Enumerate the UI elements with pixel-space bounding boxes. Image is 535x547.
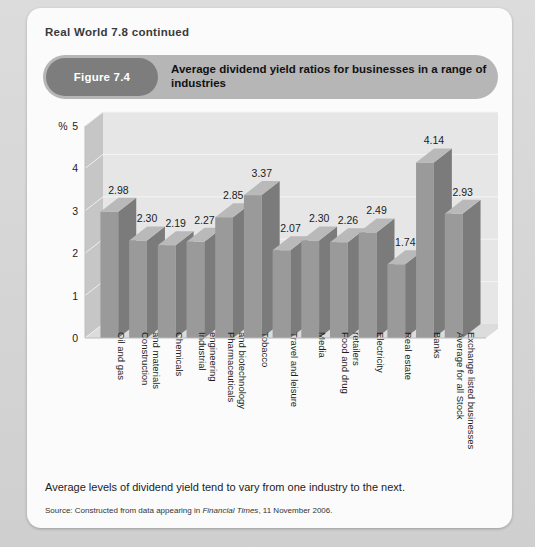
y-axis-tick-label: 4 [72,162,78,174]
figure-number-label: Figure 7.4 [74,71,130,83]
y-axis-unit-label: % [58,120,67,132]
plot-left-wall [85,112,103,338]
bar-chart: 012345%2.98Oil and gas2.30Constructionan… [43,108,498,463]
bar-group [445,200,481,338]
bar-front-face [330,242,348,338]
x-axis-category-label: Banks [432,332,443,359]
bar-front-face [301,240,319,338]
x-axis-category-label: Travel and leisure [289,332,300,407]
bar-front-face [100,212,118,338]
bar-value-label: 2.93 [452,186,473,198]
figure-title-bar: Figure 7.4 Average dividend yield ratios… [43,55,498,99]
bar-value-label: 2.30 [137,212,158,224]
bar-value-label: 2.07 [280,222,301,234]
bar-value-label: 3.37 [252,167,273,179]
chart-container: 012345%2.98Oil and gas2.30Constructionan… [43,108,498,463]
figure-number-pill: Figure 7.4 [46,58,158,96]
bar-value-label: 2.85 [223,189,244,201]
figure-title: Average dividend yield ratios for busine… [171,62,489,90]
x-axis-category-label: and materials [151,332,162,389]
bar-value-label: 2.49 [366,204,387,216]
bar-value-label: 2.19 [166,217,187,229]
x-axis-category-label: Pharmaceuticals [226,332,237,402]
source-publication: Financial Times [202,506,258,515]
bar-side-face [463,200,481,338]
bar-front-face [215,217,233,338]
figure-card: Real World 7.8 continued Figure 7.4 Aver… [27,8,512,528]
bar-front-face [273,250,291,338]
x-axis-category-label: Average for all Stock [455,332,466,420]
x-axis-category-label: and biotechnology [237,332,248,409]
x-axis-category-label: Oil and gas [116,332,127,380]
source-suffix: , 11 November 2006. [258,506,332,515]
x-axis-category-label: Construction [140,332,151,385]
y-axis-tick-label: 2 [72,247,78,259]
bar-front-face [387,264,405,338]
bar-front-face [158,245,176,338]
bar-front-face [445,214,463,338]
x-axis-category-label: Real estate [403,332,414,380]
bar-value-label: 2.98 [108,184,129,196]
x-axis-category-label: Food and drug [340,332,351,394]
bar-value-label: 2.26 [338,214,359,226]
y-axis-tick-label: 1 [72,290,78,302]
bar-value-label: 2.30 [309,212,330,224]
bar-front-face [416,162,434,338]
x-axis-category-label: Tobacco [260,332,271,367]
bar-value-label: 1.74 [395,236,416,248]
bar-front-face [129,240,147,338]
x-axis-category-label: Exchange listed businesses [466,332,477,449]
x-axis-category-label: Chemicals [174,332,185,377]
figure-source: Source: Constructed from data appearing … [45,505,495,516]
figure-caption: Average levels of dividend yield tend to… [45,480,495,494]
y-axis-tick-label: 0 [72,332,78,344]
bar-value-label: 4.14 [424,134,445,146]
source-prefix: Source: Constructed from data appearing … [45,506,202,515]
x-axis-category-label: engineering [208,332,219,382]
bar-front-face [187,242,205,338]
bar-value-label: 2.27 [194,214,215,226]
bar-front-face [359,232,377,338]
y-axis-tick-label: 3 [72,205,78,217]
y-axis-tick-label: 5 [72,120,78,132]
bar-front-face [244,195,262,338]
running-head: Real World 7.8 continued [45,26,189,38]
x-axis-category-label: Media [317,332,328,359]
